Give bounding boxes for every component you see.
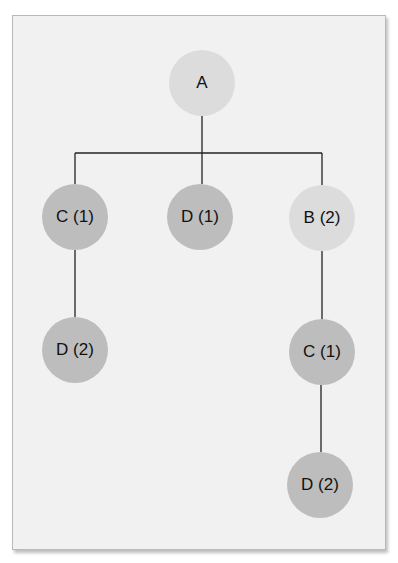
node-d2-bottom: D (2) [287, 452, 353, 518]
node-b2-right: B (2) [289, 185, 355, 251]
node-d1-mid: D (1) [167, 184, 233, 250]
node-a: A [169, 50, 235, 116]
node-c1-left: C (1) [42, 184, 108, 250]
node-c1-right: C (1) [289, 319, 355, 385]
node-d2-left: D (2) [42, 317, 108, 383]
